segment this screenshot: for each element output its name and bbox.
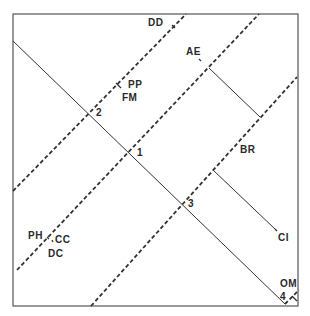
ae-segment xyxy=(209,68,260,117)
diagram-frame xyxy=(13,14,298,306)
dd-line xyxy=(13,14,186,191)
om-line xyxy=(285,290,299,304)
ci-tick xyxy=(275,229,277,231)
label-point-4: 4 xyxy=(280,292,286,302)
label-cc: CC xyxy=(55,235,70,245)
diagram-canvas xyxy=(0,0,310,316)
cc-tick xyxy=(52,240,53,242)
label-pp: PP xyxy=(128,80,142,90)
label-om: OM xyxy=(280,279,297,289)
label-dd: DD xyxy=(148,18,163,28)
label-br: BR xyxy=(240,145,255,155)
dashed-lines xyxy=(13,14,299,306)
main-diagonal xyxy=(13,41,285,304)
label-point-1: 1 xyxy=(137,148,143,158)
solid-lines xyxy=(13,41,285,304)
label-ae: AE xyxy=(186,47,201,57)
ae-tick xyxy=(199,59,201,61)
tick-marks xyxy=(47,25,297,301)
label-fm: FM xyxy=(122,93,137,103)
label-point-3: 3 xyxy=(188,199,194,209)
label-ci: CI xyxy=(278,233,289,243)
om-tick xyxy=(292,296,297,301)
br-ci-segment xyxy=(213,170,275,229)
label-ph: PH xyxy=(28,231,43,241)
ph-line xyxy=(17,14,259,270)
label-point-2: 2 xyxy=(96,108,102,118)
br-line xyxy=(91,77,297,306)
label-dc: DC xyxy=(48,249,63,259)
